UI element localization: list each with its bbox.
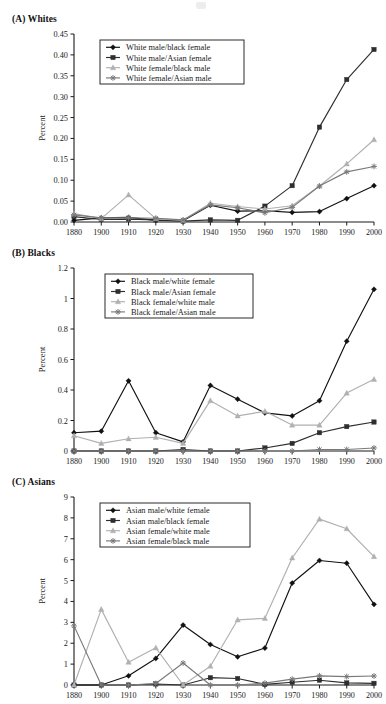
y-tick-label: 0.25 [53,114,68,123]
x-tick-label: 1910 [120,457,136,466]
y-tick-label: 0.30 [53,93,68,102]
plot-whites: 0.000.050.100.150.200.250.300.350.400.45… [0,26,386,244]
data-point [317,209,322,214]
y-tick-label: 0 [64,447,68,456]
x-tick-label: 1920 [148,228,164,237]
x-tick-label: 1950 [230,228,246,237]
data-point [208,675,212,679]
data-point [71,623,77,629]
y-tick-label: 3 [64,618,68,627]
data-point [290,413,295,418]
x-tick-label: 1990 [339,691,355,700]
data-point [207,682,213,688]
data-point [98,682,104,688]
legend-label: Black male/white female [131,277,215,286]
data-point [153,645,158,650]
data-point [180,660,186,666]
data-point [290,441,294,445]
data-point [345,424,349,428]
data-point [345,681,349,685]
y-tick-label: 7 [64,535,68,544]
data-point [126,378,131,383]
x-tick-label: 2000 [366,457,382,466]
data-point [371,445,377,451]
legend-label: White female/Asian male [126,74,212,83]
data-point [235,205,241,211]
y-tick-label: 0.6 [58,356,68,365]
y-tick-label: 5 [64,577,68,586]
legend-label: White male/Asian female [126,54,212,63]
x-tick-label: 1930 [175,691,191,700]
y-tick-label: 9 [64,493,68,502]
plot-asians: 0123456789188019001910192019301940195019… [0,489,386,704]
legend-label: White male/black female [126,43,210,52]
data-point [371,164,377,170]
data-point [235,448,241,454]
y-tick-label: 0.10 [53,176,68,185]
data-point [317,431,321,435]
data-point [153,448,159,454]
data-point [344,447,350,453]
data-point [71,212,77,218]
data-point [372,420,376,424]
data-point [317,516,322,521]
data-point [208,218,212,222]
x-tick-label: 1940 [202,457,218,466]
panel-title-c: (C) Asians [12,477,386,487]
data-point [262,448,268,454]
x-tick-label: 1930 [175,228,191,237]
data-point [98,448,104,454]
data-point [371,137,376,142]
y-tick-label: 0.15 [53,155,68,164]
data-point [289,204,295,210]
x-tick-label: 1980 [311,691,327,700]
legend-label: Asian female/black male [126,537,210,546]
y-tick-label: 0.45 [53,30,68,39]
data-point [317,183,323,189]
chart-legend: Asian male/white femaleAsian male/black … [100,503,250,547]
x-tick-label: 1910 [120,228,136,237]
data-point [126,215,132,221]
data-point [208,383,213,388]
x-tick-label: 1940 [202,691,218,700]
data-point [344,339,349,344]
data-point [207,202,213,208]
data-point [344,196,349,201]
x-tick-label: 1880 [66,457,82,466]
data-point [317,447,323,453]
x-tick-label: 1960 [257,691,273,700]
x-tick-label: 1900 [93,228,109,237]
y-tick-label: 1 [64,295,68,304]
x-tick-label: 1990 [339,228,355,237]
y-tick-label: 4 [64,597,69,606]
x-tick-label: 1960 [257,457,273,466]
data-point [262,408,267,413]
data-point [262,680,268,686]
y-tick-label: 2 [64,639,68,648]
data-point [371,673,377,679]
y-axis-label: Percent [37,115,47,141]
data-point [289,676,295,682]
x-tick-label: 1950 [230,457,246,466]
data-point [126,448,132,454]
x-tick-label: 1920 [148,457,164,466]
chart-svg-blacks: 00.20.40.60.811.218801900191019201930194… [0,260,386,473]
x-tick-label: 1920 [148,691,164,700]
data-point [372,47,376,51]
data-point [289,448,295,454]
plot-blacks: 00.20.40.60.811.218801900191019201930194… [0,260,386,473]
data-point [262,645,267,650]
x-tick-label: 1960 [257,228,273,237]
legend-label: Black female/Asian male [131,308,216,317]
chart-legend: White male/black femaleWhite male/Asian … [100,40,244,84]
x-tick-label: 1990 [339,457,355,466]
panel-whites: (A) Whites 0.000.050.100.150.200.250.300… [0,0,386,244]
data-point [99,606,104,611]
data-point [290,183,294,187]
data-point [180,448,186,454]
data-point [344,169,350,175]
y-tick-label: 8 [64,514,68,523]
data-point [372,681,376,685]
data-point [235,218,239,222]
data-point [344,674,350,680]
